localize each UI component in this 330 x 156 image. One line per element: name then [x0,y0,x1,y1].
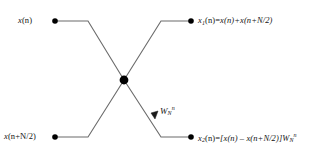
label-output-top: x1(n)=x(n)+x(n+N/2) [198,16,273,26]
node-butterfly-center-dot [120,76,129,85]
edge-input-top-to-center [55,21,124,80]
edge-center-to-output-top [124,21,191,80]
label-input-top-arg: (n) [22,15,32,25]
label-input-bottom-arg: (n+N/2) [8,131,36,141]
label-output-bottom-arg: (n) [205,133,215,143]
edge-center-to-output-bottom [124,80,191,137]
node-input-top-dot [52,18,58,24]
label-output-bottom-twiddle-sup: n [294,132,297,138]
twiddle-arrowhead-icon [151,111,158,119]
label-input-bottom: x(n+N/2) [4,132,36,141]
node-input-bottom-dot [52,134,58,140]
label-output-bottom-twiddle-var: W [282,133,289,143]
label-twiddle-var: W [160,106,168,116]
label-output-top-rhs: x(n)+x(n+N/2) [220,15,272,25]
label-twiddle-sup: n [172,105,175,111]
fft-butterfly-diagram: x(n) x(n+N/2) x1(n)=x(n)+x(n+N/2) x2(n)=… [0,0,330,156]
label-twiddle-factor: WNn [160,105,175,116]
label-output-bottom: x2(n)=[x(n) – x(n+N/2)]WNn [198,132,297,143]
edge-input-bottom-to-center [55,80,124,137]
label-output-bottom-rhs: [x(n) – x(n+N/2)] [220,133,282,143]
label-output-top-arg: (n) [205,15,215,25]
node-output-bottom-dot [188,134,194,140]
label-input-top: x(n) [18,16,32,25]
node-output-top-dot [188,18,194,24]
